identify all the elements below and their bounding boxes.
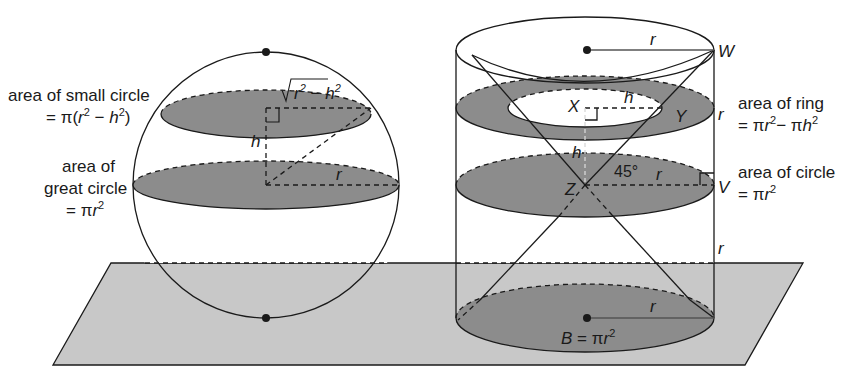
top-radius-label: r xyxy=(650,30,657,49)
point-W-label: W xyxy=(718,42,736,61)
point-V-label: V xyxy=(718,178,731,197)
circle-area-label: area of circle xyxy=(738,163,835,182)
point-Z-label: Z xyxy=(564,180,576,199)
great-circle-label-line1: area of xyxy=(62,157,115,176)
point-X-label: X xyxy=(567,97,580,116)
height-XZ-label: h xyxy=(572,143,581,162)
small-circle-area-label: area of small circle xyxy=(8,86,150,105)
inner-radius-label: h xyxy=(624,88,633,107)
ring-area-formula: = πr2− πh2 xyxy=(738,114,818,135)
north-pole-point xyxy=(262,48,270,56)
cavalieri-diagram: r2 − h2 h r area of small circle = π(r2 … xyxy=(0,0,859,387)
side-lower-r-label: r xyxy=(718,239,725,258)
circle-area-formula: = πr2 xyxy=(738,183,776,204)
base-center-point xyxy=(583,314,591,322)
ring-area-label: area of ring xyxy=(738,94,824,113)
point-Y-label: Y xyxy=(675,107,688,126)
great-circle-area-formula: = πr2 xyxy=(66,199,104,220)
top-center-point xyxy=(583,46,591,54)
south-pole-point xyxy=(262,314,270,322)
cylinder-annotations: area of ring = πr2− πh2 area of circle =… xyxy=(738,94,835,204)
small-circle-area-formula: = π(r2 − h2) xyxy=(46,106,130,127)
side-upper-r-label: r xyxy=(718,105,725,124)
base-area-label: B = πr2 xyxy=(561,327,615,348)
sphere-annotations: area of small circle = π(r2 − h2) area o… xyxy=(8,86,150,220)
sphere-height-label: h xyxy=(251,132,260,151)
great-circle-label-line2: great circle xyxy=(44,179,127,198)
cylinder: W X Y Z V r h h 45° r r r r B = πr2 xyxy=(456,17,736,352)
angle-label: 45° xyxy=(614,163,638,180)
